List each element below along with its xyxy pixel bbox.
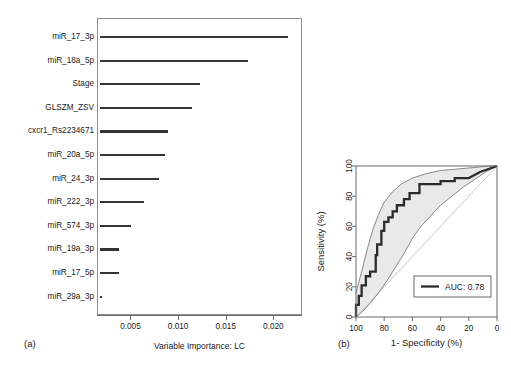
- variable-label: miR_29a_3p: [48, 290, 94, 304]
- panel-b-roc-curve: 1008060402000204060801001- Specificity (…: [310, 0, 511, 379]
- variable-importance-bar: [100, 225, 131, 227]
- variable-importance-bar: [100, 60, 248, 62]
- roc-y-tick-label: 100: [345, 159, 354, 173]
- variable-importance-bar: [100, 178, 159, 180]
- roc-x-tick-label: 100: [349, 324, 363, 333]
- roc-y-tick-label: 60: [345, 221, 354, 231]
- variable-importance-row: miR_17_5p: [0, 266, 310, 280]
- variable-importance-row: Stage: [0, 77, 310, 91]
- variable-importance-row: miR_20a_5p: [0, 148, 310, 162]
- variable-label: Stage: [73, 77, 94, 91]
- roc-y-tick-label: 20: [345, 282, 354, 292]
- variable-importance-row: miR_574_3p: [0, 219, 310, 233]
- variable-importance-bar: [100, 201, 144, 203]
- roc-y-axis-label: Sensitivity (%): [315, 211, 326, 271]
- variable-importance-bar: [100, 296, 102, 298]
- roc-x-tick-label: 20: [464, 324, 474, 333]
- variable-importance-bar: [100, 130, 168, 132]
- variable-label: GLSZM_ZSV: [45, 101, 94, 115]
- figure-root: miR_17_3pmiR_18a_5pStageGLSZM_ZSVcxcr1_R…: [0, 0, 511, 379]
- x-axis-tick: [178, 315, 179, 320]
- x-axis-tick: [273, 315, 274, 320]
- variable-label: miR_19a_3p: [48, 242, 94, 256]
- x-axis-tick: [130, 315, 131, 320]
- variable-importance-row: miR_18a_5p: [0, 54, 310, 68]
- variable-label: miR_20a_5p: [48, 148, 94, 162]
- variable-importance-bar: [100, 107, 192, 109]
- panel-a-tag: (a): [24, 338, 36, 349]
- panel-a-x-axis-line: [97, 315, 302, 316]
- roc-legend-label: AUC: 0.78: [445, 282, 484, 292]
- variable-importance-bar: [100, 248, 119, 250]
- x-axis-tick-label: 0.005: [120, 322, 141, 331]
- roc-x-tick-label: 60: [408, 324, 418, 333]
- roc-x-axis-label: 1- Specificity (%): [391, 337, 462, 348]
- variable-label: miR_24_3p: [52, 172, 94, 186]
- variable-label: cxcr1_Rs2234671: [28, 124, 94, 138]
- variable-label: miR_574_3p: [48, 219, 94, 233]
- variable-importance-bar: [100, 272, 119, 274]
- variable-importance-bar: [100, 36, 288, 38]
- roc-x-tick-label: 0: [495, 324, 500, 333]
- variable-importance-row: miR_24_3p: [0, 172, 310, 186]
- variable-importance-row: miR_29a_3p: [0, 290, 310, 304]
- panel-a-x-axis-label: Variable Importance: LC: [97, 341, 302, 351]
- roc-plot-svg: 1008060402000204060801001- Specificity (…: [310, 0, 511, 379]
- variable-importance-row: miR_17_3p: [0, 30, 310, 44]
- variable-importance-row: cxcr1_Rs2234671: [0, 124, 310, 138]
- roc-y-tick-label: 40: [345, 252, 354, 262]
- variable-label: miR_17_5p: [52, 266, 94, 280]
- x-axis-tick-label: 0.015: [215, 322, 236, 331]
- variable-label: miR_17_3p: [52, 30, 94, 44]
- roc-y-tick-label: 0: [345, 314, 354, 319]
- roc-x-tick-label: 40: [436, 324, 446, 333]
- x-axis-tick-label: 0.020: [263, 322, 284, 331]
- panel-b-tag: (b): [338, 338, 350, 349]
- variable-importance-row: miR_19a_3p: [0, 242, 310, 256]
- variable-importance-row: miR_222_3p: [0, 195, 310, 209]
- variable-label: miR_18a_5p: [48, 54, 94, 68]
- variable-label: miR_222_3p: [48, 195, 94, 209]
- variable-importance-row: GLSZM_ZSV: [0, 101, 310, 115]
- panel-a-variable-importance: miR_17_3pmiR_18a_5pStageGLSZM_ZSVcxcr1_R…: [0, 0, 310, 379]
- x-axis-tick: [226, 315, 227, 320]
- variable-importance-bar: [100, 83, 200, 85]
- roc-x-tick-label: 80: [380, 324, 390, 333]
- x-axis-tick-label: 0.010: [168, 322, 189, 331]
- roc-y-tick-label: 80: [345, 191, 354, 201]
- variable-importance-bar: [100, 154, 165, 156]
